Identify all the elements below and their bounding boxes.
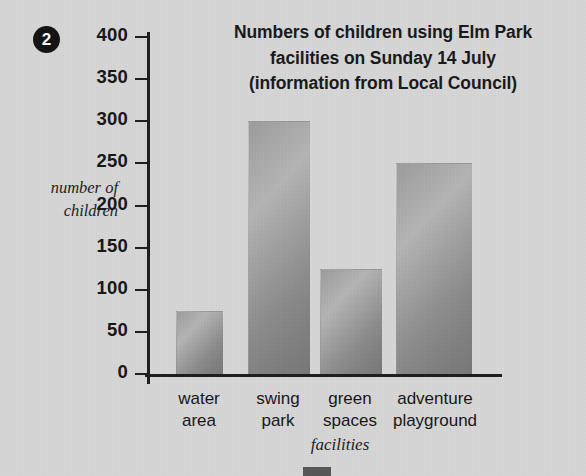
y-axis-tick-250: [135, 162, 148, 164]
x-axis-title: facilities: [175, 435, 505, 455]
chart-title-line-3: (information from Local Council): [196, 71, 570, 97]
chart-title: Numbers of children using Elm Park facil…: [196, 20, 570, 97]
y-axis-tick-200: [135, 205, 148, 207]
y-axis-tick-label-300: 300: [64, 108, 128, 130]
y-axis-tick-label-100: 100: [64, 277, 128, 299]
y-axis-tick-0: [135, 373, 148, 375]
y-axis-tick-label-250: 250: [64, 150, 128, 172]
y-axis-title-line-2: children: [6, 199, 118, 222]
y-axis-tick-label-400: 400: [64, 24, 128, 46]
y-axis-tick-350: [135, 78, 148, 80]
x-axis-line: [145, 374, 502, 377]
y-axis-tick-label-0: 0: [64, 361, 128, 383]
bar-swing-park: [248, 121, 310, 374]
x-axis-label-line: playground: [375, 410, 495, 432]
y-axis-title-line-1: number of: [6, 176, 118, 199]
chart-title-line-2: facilities on Sunday 14 July: [196, 46, 570, 72]
y-axis-tick-labels: 050100150200250300350400: [55, 0, 128, 476]
y-axis-tick-100: [135, 289, 148, 291]
x-axis-label-adventure-playground: adventureplayground: [375, 388, 495, 432]
bar-water-area: [176, 311, 223, 374]
bar-chart: 2 Numbers of children using Elm Park fac…: [0, 0, 586, 476]
page-marker: [303, 467, 331, 476]
y-axis-tick-300: [135, 120, 148, 122]
y-axis-tick-label-150: 150: [64, 235, 128, 257]
x-axis-label-line: adventure: [375, 388, 495, 410]
y-axis-tick-400: [135, 36, 148, 38]
y-axis-tick-150: [135, 247, 148, 249]
y-axis-tick-50: [135, 331, 148, 333]
y-axis-tick-label-350: 350: [64, 66, 128, 88]
y-axis-title: number of children: [6, 176, 118, 222]
bar-green-spaces: [320, 269, 382, 374]
y-axis-tick-label-50: 50: [64, 319, 128, 341]
chart-title-line-1: Numbers of children using Elm Park: [196, 20, 570, 46]
question-number-badge: 2: [33, 26, 60, 53]
bar-adventure-playground: [396, 163, 472, 374]
